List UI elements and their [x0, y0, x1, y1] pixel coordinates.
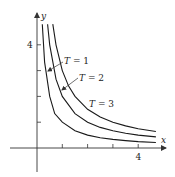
y-ticks	[37, 45, 41, 122]
curve-t3	[53, 24, 156, 131]
x-ticks	[62, 144, 138, 148]
y-axis-label: y	[40, 11, 47, 21]
x-axis-label: x	[161, 135, 166, 145]
label-t3: T = 3	[89, 99, 114, 109]
label-t2: T = 2	[79, 73, 104, 83]
hyperbola-chart: x y 4 4 T = 1 T = 2 T = 3	[0, 0, 175, 177]
label-t1: T = 1	[64, 56, 89, 66]
x-tick-label-4: 4	[136, 152, 142, 162]
curve-t1	[42, 24, 156, 142]
y-tick-label-4: 4	[27, 40, 33, 50]
